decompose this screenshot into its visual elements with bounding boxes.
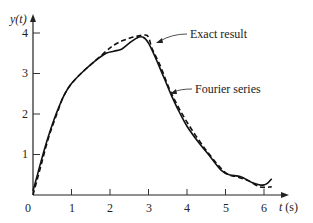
exact-result-label: Exact result <box>190 28 247 40</box>
origin-label: 0 <box>21 202 35 214</box>
x-tick-label: 5 <box>219 202 233 214</box>
y-tick-label: 3 <box>14 67 28 79</box>
x-axis-label: t (s) <box>279 201 298 213</box>
exact-result-leader <box>160 34 187 41</box>
axis-ticks <box>33 33 264 195</box>
exact-result-curve <box>33 35 272 195</box>
y-tick-label: 2 <box>14 108 28 120</box>
fourier-series-leader <box>174 89 192 92</box>
x-tick-label: 3 <box>142 202 156 214</box>
chart-canvas <box>0 0 313 223</box>
y-tick-label: 1 <box>14 148 28 160</box>
fourier-series-curve <box>33 37 272 191</box>
y-axis-arrow-icon <box>30 14 36 22</box>
x-axis-arrow-icon <box>281 192 289 198</box>
x-tick-label: 6 <box>257 202 271 214</box>
fourier-series-label: Fourier series <box>195 83 261 95</box>
y-tick-label: 4 <box>14 27 28 39</box>
y-axis-label: y(t) <box>10 13 27 25</box>
x-tick-label: 2 <box>103 202 117 214</box>
x-tick-label: 1 <box>65 202 79 214</box>
x-tick-label: 4 <box>180 202 194 214</box>
exact-result-arrow-icon <box>156 38 163 43</box>
